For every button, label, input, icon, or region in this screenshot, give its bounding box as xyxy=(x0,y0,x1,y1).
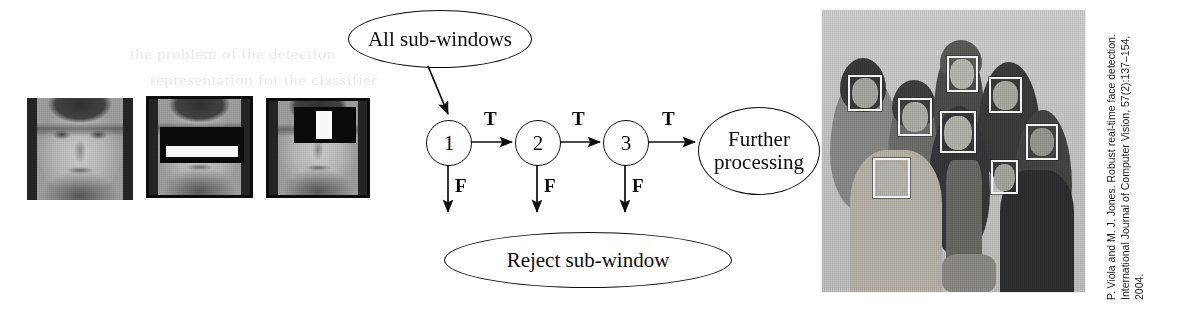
haar-two-rectangle-feature xyxy=(160,127,244,163)
edge-label-false-1: F xyxy=(455,175,467,197)
edge-label-false-3: F xyxy=(632,175,644,197)
input-node-label: All sub-windows xyxy=(368,28,512,51)
detection-box-face-5 xyxy=(989,77,1022,113)
detection-box-face-6 xyxy=(1026,124,1058,160)
ghost-text-line-2: representation for the classifier xyxy=(150,71,378,89)
detection-box-face-4 xyxy=(940,111,976,153)
thumbnail-plain-face xyxy=(27,98,133,200)
edge-label-true-1: T xyxy=(484,108,497,130)
detection-box-face-1 xyxy=(848,75,882,111)
edge-label-true-2: T xyxy=(572,108,585,130)
thumbnail-two-rectangle-feature xyxy=(146,96,253,198)
citation-line-3: 2004. xyxy=(1132,274,1147,300)
group-photo-with-detections xyxy=(822,10,1085,292)
reject-node-sub-window[interactable]: Reject sub-window xyxy=(444,232,732,288)
detection-box-face-8 xyxy=(873,158,910,198)
detection-box-face-7 xyxy=(991,160,1018,194)
haar-white-rectangle xyxy=(166,146,238,157)
thumbnail-three-rectangle-feature xyxy=(266,98,370,198)
reject-node-label: Reject sub-window xyxy=(507,249,670,272)
output-node-label: Further processing xyxy=(699,128,819,173)
cascade-stage-3[interactable]: 3 xyxy=(603,120,649,166)
citation-line-2: International Journal of Computer Vision… xyxy=(1118,36,1133,300)
input-node-all-subwindows[interactable]: All sub-windows xyxy=(348,10,532,68)
detection-box-face-3 xyxy=(947,56,978,92)
figure-canvas: the problem of the detection representat… xyxy=(0,0,1181,318)
cascade-stage-2[interactable]: 2 xyxy=(515,120,561,166)
haar-three-rectangle-feature xyxy=(294,107,356,143)
cascade-stage-3-label: 3 xyxy=(621,131,632,156)
cascade-stage-1[interactable]: 1 xyxy=(426,120,472,166)
haar-white-rectangle xyxy=(316,111,332,139)
edge-label-false-2: F xyxy=(544,175,556,197)
ghost-text-line-1: the problem of the detection xyxy=(130,45,336,63)
scan-noise-overlay xyxy=(27,98,133,200)
cascade-stage-1-label: 1 xyxy=(444,131,455,156)
output-node-further-processing[interactable]: Further processing xyxy=(698,107,820,195)
edge-label-true-3: T xyxy=(662,108,675,130)
detection-box-face-2 xyxy=(898,98,932,136)
citation-line-1: P. Viola and M. J. Jones. Robust real-ti… xyxy=(1104,34,1119,300)
edge-input-to-stage1 xyxy=(428,66,448,114)
cascade-stage-2-label: 2 xyxy=(533,131,544,156)
